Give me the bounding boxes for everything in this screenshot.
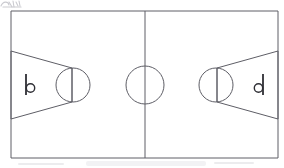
paper-background	[0, 0, 284, 168]
basketball-court-diagram	[0, 0, 284, 168]
court-svg-canvas	[0, 0, 284, 168]
